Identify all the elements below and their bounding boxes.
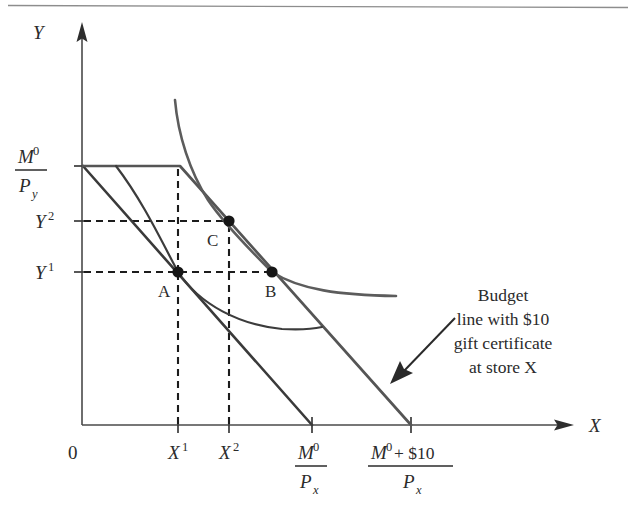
top-divider-rule	[8, 6, 628, 8]
m-over-py-denominator: P	[18, 175, 31, 196]
annotation-pointer-shaft	[403, 318, 455, 372]
x1-sup: 1	[182, 440, 188, 454]
marked-points-group	[172, 215, 277, 277]
annotation-text-block: Budget line with $10 gift certificate at…	[454, 285, 553, 377]
x-tick-label-m-plus-10-over-px: M 0 + $10 P x	[368, 440, 453, 497]
point-label-a: A	[158, 282, 171, 301]
m-plus-10-numerator-tail: + $10	[394, 443, 435, 463]
x1-base: X	[167, 442, 181, 463]
m-over-px-denominator: P	[299, 471, 312, 492]
figure-root: A B C Y X 0 M 0 P y Y 2 Y 1 X 1	[0, 0, 632, 521]
x2-base: X	[218, 442, 232, 463]
point-dot-c	[223, 215, 234, 226]
m-plus-10-denominator-sub: x	[415, 483, 422, 497]
annotation-line-3: gift certificate	[454, 333, 553, 353]
m-over-px-denominator-sub: x	[312, 483, 319, 497]
point-label-c: C	[207, 231, 218, 250]
m-over-py-denominator-sub: y	[30, 187, 38, 201]
y-axis-label: Y	[33, 22, 46, 43]
indifference-curve-chart: A B C Y X 0 M 0 P y Y 2 Y 1 X 1	[0, 0, 632, 521]
y1-base: Y	[35, 262, 48, 283]
x-tick-label-x1: X 1	[167, 440, 188, 463]
annotation-line-2: line with $10	[457, 309, 550, 329]
x-tick-label-m-over-px: M 0 P x	[295, 440, 327, 497]
origin-label: 0	[68, 442, 78, 463]
annotation-line-4: at store X	[469, 357, 537, 377]
annotation-pointer	[390, 318, 455, 384]
y2-base: Y	[35, 211, 48, 232]
y2-sup: 2	[48, 209, 54, 223]
m-plus-10-denominator: P	[402, 471, 415, 492]
y1-sup: 1	[48, 260, 54, 274]
x-axis-label: X	[588, 415, 602, 436]
x2-sup: 2	[233, 440, 239, 454]
m-plus-10-numerator-sup: 0	[386, 440, 392, 454]
indifference-curve-low	[116, 166, 322, 329]
m-over-px-numerator-sup: 0	[313, 440, 319, 454]
y-tick-label-m-over-py: M 0 P y	[15, 144, 47, 201]
x-tick-label-x2: X 2	[218, 440, 239, 463]
point-label-b: B	[265, 282, 276, 301]
y-tick-label-y1: Y 1	[35, 260, 54, 283]
point-dot-b	[266, 266, 277, 277]
guide-lines-group	[84, 166, 275, 424]
y-tick-label-y2: Y 2	[35, 209, 54, 232]
point-dot-a	[172, 266, 183, 277]
indifference-curve-high	[175, 100, 396, 296]
m-over-py-numerator-sup: 0	[33, 144, 39, 158]
annotation-line-1: Budget	[478, 285, 529, 305]
